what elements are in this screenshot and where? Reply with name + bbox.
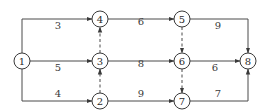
duration-label-7-8: 7: [215, 88, 221, 99]
duration-label-1-4: 3: [55, 20, 61, 31]
node-4: 4: [92, 11, 108, 27]
duration-label-1-3: 5: [55, 62, 61, 73]
node-1: 1: [14, 53, 30, 69]
node-5-label: 5: [179, 14, 185, 25]
node-3: 3: [92, 53, 108, 69]
duration-label-2-7: 9: [138, 88, 144, 99]
duration-label-1-2: 4: [55, 88, 61, 99]
node-6: 6: [174, 53, 190, 69]
node-8: 8: [240, 53, 256, 69]
node-8-label: 8: [245, 56, 251, 67]
duration-label-4-5: 6: [138, 16, 144, 27]
node-3-label: 3: [97, 56, 103, 67]
node-7: 7: [174, 93, 190, 109]
node-6-label: 6: [179, 56, 185, 67]
node-1-label: 1: [19, 56, 25, 67]
node-7-label: 7: [179, 96, 185, 107]
duration-label-3-6: 8: [138, 58, 144, 69]
node-2: 2: [92, 93, 108, 109]
node-4-label: 4: [97, 14, 103, 25]
node-2-label: 2: [97, 96, 103, 107]
network-diagram: 3 5 4 6 8 9 9 6 7 1 4 3 2 5 6 7 8: [0, 0, 274, 112]
duration-label-6-8: 6: [212, 62, 218, 73]
node-5: 5: [174, 11, 190, 27]
duration-label-5-8: 9: [215, 20, 221, 31]
